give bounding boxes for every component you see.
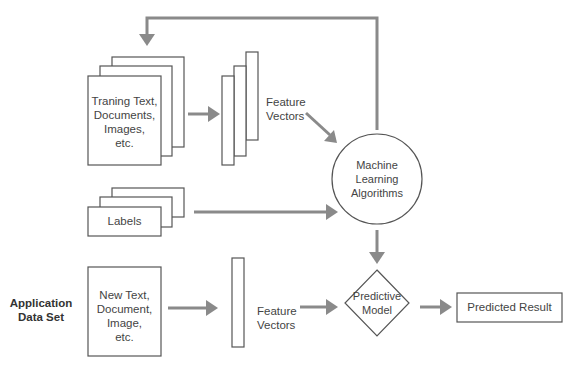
training-label-line: Images, (88, 122, 161, 136)
arrow-vectors-to-model (300, 299, 338, 315)
predictive-model-label: Predictive Model (345, 289, 409, 317)
feature-vectors-line: Vectors (257, 318, 297, 332)
new-feature-vector-bar (232, 258, 244, 347)
arrow-vectors-to-ml (306, 113, 337, 143)
ml-label-line: Algorithms (332, 186, 422, 200)
arrow-ml-to-model (369, 230, 385, 264)
application-label-line: Data Set (8, 310, 74, 324)
feature-vectors-line: Vectors (266, 109, 306, 123)
application-label-line: Application (8, 296, 74, 310)
training-label-line: Documents, (88, 108, 161, 122)
new-data-label-line: etc. (88, 330, 161, 344)
arrow-training-to-vectors (188, 106, 220, 122)
training-label-line: etc. (88, 136, 161, 150)
ml-label-line: Learning (332, 172, 422, 186)
training-stack-label: Traning Text, Documents, Images, etc. (88, 94, 161, 150)
vector-bar-middle (234, 66, 246, 156)
model-label-line: Model (345, 303, 409, 317)
vector-bar-front (222, 76, 234, 165)
ml-algorithms-label: Machine Learning Algorithms (332, 158, 422, 200)
training-feature-vector-bars (222, 52, 258, 165)
arrow-newdata-to-vector (168, 300, 218, 316)
labels-label: Labels (88, 214, 161, 228)
feature-vectors-line: Feature (257, 304, 297, 318)
new-data-label-line: Document, (88, 302, 161, 316)
application-data-set-label: Application Data Set (8, 296, 74, 324)
predicted-result-label: Predicted Result (457, 300, 562, 314)
training-feature-vectors-label: Feature Vectors (266, 95, 306, 123)
vector-bar-back (246, 52, 258, 140)
arrow-labels-to-ml (194, 204, 338, 220)
training-label-line: Traning Text, (88, 94, 161, 108)
ml-label-line: Machine (332, 158, 422, 172)
new-data-label-line: New Text, (88, 288, 161, 302)
labels-stack (88, 188, 184, 236)
feature-vectors-line: Feature (266, 95, 306, 109)
new-data-label-line: Image, (88, 316, 161, 330)
new-feature-vectors-label: Feature Vectors (257, 304, 297, 332)
new-data-label: New Text, Document, Image, etc. (88, 288, 161, 344)
model-label-line: Predictive (345, 289, 409, 303)
arrow-model-to-result (420, 299, 452, 315)
